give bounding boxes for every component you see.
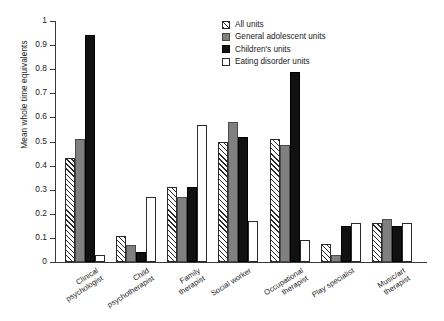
y-axis-tick-label: 0.2	[35, 208, 47, 218]
bar	[136, 252, 146, 262]
legend: All unitsGeneral adolescent unitsChildre…	[222, 19, 437, 69]
y-axis-tick: 0.6	[50, 117, 55, 118]
bar	[116, 236, 126, 263]
legend-label: Children's units	[235, 45, 291, 54]
y-axis-tick-label: 0.1	[35, 232, 47, 242]
y-axis-tick: 0.2	[50, 214, 55, 215]
bar	[300, 240, 310, 262]
bar	[197, 125, 207, 262]
bar	[126, 245, 136, 262]
bar	[331, 255, 341, 262]
legend-label: All units	[235, 20, 264, 29]
legend-swatch-icon	[222, 58, 230, 66]
bar	[372, 223, 382, 262]
bar	[167, 187, 177, 262]
y-axis-title: Mean whole time equivalents	[20, 15, 29, 175]
y-axis-tick: 0.8	[50, 69, 55, 70]
y-axis-tick-label: 0.4	[35, 160, 47, 170]
bar	[238, 137, 248, 262]
bar-group	[116, 21, 156, 262]
bar	[351, 223, 361, 262]
y-axis-tick: 0.5	[50, 142, 55, 143]
bar	[280, 145, 290, 262]
y-axis-tick: 0.9	[50, 45, 55, 46]
y-axis-tick: 0.1	[50, 238, 55, 239]
legend-item: General adolescent units	[222, 31, 437, 42]
bar	[270, 139, 280, 262]
y-axis-tick-label: 0.9	[35, 39, 47, 49]
y-axis-tick: 0.7	[50, 93, 55, 94]
bar	[75, 139, 85, 262]
bar	[177, 197, 187, 262]
y-axis-tick: 1	[50, 21, 55, 22]
legend-item: Eating disorder units	[222, 56, 437, 67]
bar	[382, 219, 392, 262]
bar-group	[65, 21, 105, 262]
bar-group	[167, 21, 207, 262]
bar	[321, 244, 331, 262]
bar	[187, 187, 197, 262]
legend-swatch-icon	[222, 45, 230, 53]
bar	[228, 122, 238, 262]
y-axis-tick-label: 0	[42, 256, 47, 266]
y-axis-tick-label: 0.5	[35, 136, 47, 146]
bar	[146, 197, 156, 262]
bar	[248, 221, 258, 262]
y-axis-tick-label: 0.7	[35, 87, 47, 97]
legend-item: All units	[222, 19, 437, 30]
legend-item: Children's units	[222, 44, 437, 55]
legend-swatch-icon	[222, 21, 230, 29]
y-axis-tick-label: 1	[42, 15, 47, 25]
bar	[341, 226, 351, 262]
bar	[85, 35, 95, 262]
bar	[290, 72, 300, 262]
y-axis-tick: 0.3	[50, 190, 55, 191]
y-axis-line	[55, 21, 56, 262]
y-axis-tick: 0	[50, 262, 55, 263]
bar-chart: Mean whole time equivalents 00.10.20.30.…	[0, 0, 444, 321]
x-axis-line	[55, 262, 427, 263]
bar	[218, 142, 228, 263]
legend-label: Eating disorder units	[235, 57, 310, 66]
y-axis-tick-label: 0.8	[35, 63, 47, 73]
y-axis-tick: 0.4	[50, 166, 55, 167]
legend-label: General adolescent units	[235, 32, 326, 41]
legend-swatch-icon	[222, 33, 230, 41]
bar	[95, 255, 105, 262]
bar	[402, 223, 412, 262]
y-axis-tick-label: 0.3	[35, 184, 47, 194]
y-axis-tick-label: 0.6	[35, 111, 47, 121]
bar	[65, 158, 75, 262]
bar	[392, 226, 402, 262]
